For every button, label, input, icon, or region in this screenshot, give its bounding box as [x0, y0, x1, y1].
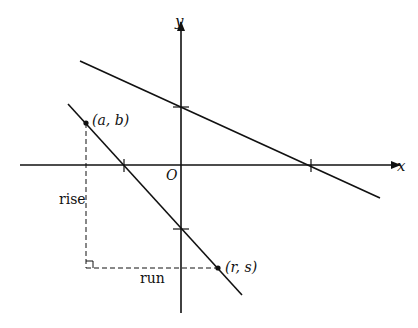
slope-diagram: y x O (a, b) (r, s) rise run	[0, 0, 418, 328]
x-axis-label: x	[397, 157, 406, 175]
right-angle-marker	[86, 261, 93, 268]
line-upper	[80, 61, 380, 198]
line-lower	[68, 104, 242, 295]
diagram-canvas: y x O (a, b) (r, s) rise run	[0, 0, 418, 328]
origin-label: O	[166, 167, 178, 183]
point-r-s	[215, 265, 220, 270]
rise-label: rise	[59, 191, 86, 207]
y-axis-label: y	[174, 12, 184, 30]
point-a-b-label: (a, b)	[92, 112, 129, 128]
point-a-b	[83, 120, 88, 125]
point-r-s-label: (r, s)	[225, 259, 257, 275]
run-label: run	[140, 270, 165, 286]
